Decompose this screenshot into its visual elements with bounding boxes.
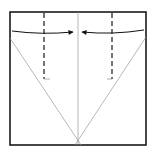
fold-diagram: [0, 0, 153, 155]
